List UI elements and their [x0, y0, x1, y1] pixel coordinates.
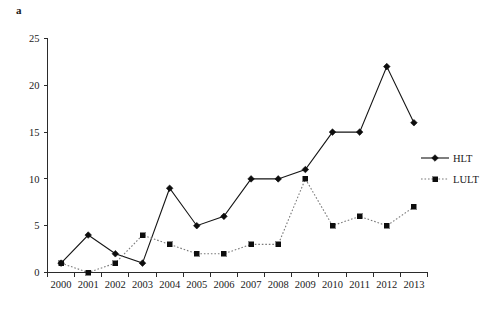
- data-series-group: [58, 63, 417, 275]
- data-point: [357, 214, 362, 219]
- data-point: [86, 270, 91, 275]
- legend-label: HLT: [453, 153, 473, 164]
- x-axis-tick-label: 2007: [241, 279, 262, 290]
- y-axis-tick-label: 5: [34, 220, 39, 231]
- y-axis: 0510152025: [29, 33, 48, 278]
- x-axis-tick-label: 2006: [213, 279, 234, 290]
- data-point: [167, 242, 172, 247]
- x-axis-tick-label: 2010: [322, 279, 343, 290]
- data-point: [221, 251, 226, 256]
- data-point: [383, 63, 390, 70]
- y-axis-tick-label: 10: [29, 174, 40, 185]
- x-axis-tick-label: 2012: [376, 279, 397, 290]
- x-axis-tick-label: 2005: [186, 279, 207, 290]
- figure-panel-a: a 0510152025 200020012002200320042005200…: [0, 0, 495, 309]
- x-axis-tick-label: 2000: [51, 279, 72, 290]
- data-point: [384, 223, 389, 228]
- data-point: [140, 233, 145, 238]
- x-axis: 2000200120022003200420052006200720082009…: [48, 273, 428, 291]
- x-axis-tick-label: 2009: [295, 279, 316, 290]
- data-point: [59, 261, 64, 266]
- y-axis-tick-label: 15: [29, 127, 40, 138]
- data-point: [411, 204, 416, 209]
- x-axis-tick-label: 2003: [132, 279, 153, 290]
- data-point: [411, 119, 418, 126]
- x-axis-tick-label: 2008: [268, 279, 289, 290]
- legend-entry-hlt: HLT: [421, 153, 473, 164]
- series-lult: [59, 176, 417, 275]
- data-point: [303, 176, 308, 181]
- data-point: [112, 250, 119, 257]
- x-axis-tick-label: 2004: [159, 279, 181, 290]
- x-axis-tick-label: 2013: [403, 279, 424, 290]
- data-point: [330, 223, 335, 228]
- line-chart: 0510152025 20002001200220032004200520062…: [0, 0, 495, 309]
- legend-label: LULT: [453, 174, 479, 185]
- data-point: [249, 242, 254, 247]
- data-point: [276, 242, 281, 247]
- data-point: [194, 251, 199, 256]
- data-point: [356, 129, 363, 136]
- y-axis-tick-label: 20: [29, 80, 40, 91]
- y-axis-tick-label: 0: [34, 267, 39, 278]
- legend-entry-lult: LULT: [421, 174, 479, 185]
- data-point: [139, 260, 146, 267]
- y-axis-tick-label: 25: [29, 33, 40, 44]
- series-hlt: [58, 63, 417, 266]
- series-line-lult: [61, 179, 414, 273]
- legend-marker-square-icon: [433, 177, 438, 182]
- x-axis-tick-label: 2001: [78, 279, 99, 290]
- legend-marker-diamond-icon: [432, 155, 439, 162]
- series-line-hlt: [61, 67, 414, 264]
- x-axis-tick-label: 2002: [105, 279, 126, 290]
- data-point: [113, 261, 118, 266]
- x-axis-tick-label: 2011: [349, 279, 370, 290]
- data-point: [275, 176, 282, 183]
- chart-legend: HLTLULT: [421, 153, 479, 185]
